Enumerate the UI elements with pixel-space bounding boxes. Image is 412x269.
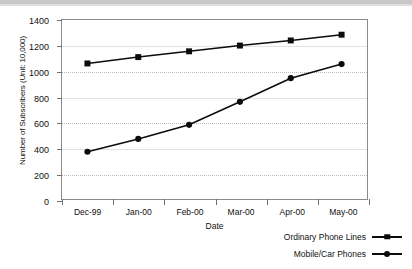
x-tick — [216, 199, 217, 205]
x-tick-label: Apr-00 — [279, 207, 305, 217]
x-tick-label: Jan-00 — [126, 207, 152, 217]
legend-marker-circle-icon — [372, 249, 402, 259]
x-tick — [369, 199, 370, 205]
x-tick-label: Feb-00 — [176, 207, 203, 217]
chart-legend: Ordinary Phone Lines Mobile/Car Phones — [162, 228, 402, 262]
data-point-circle[interactable] — [135, 136, 141, 142]
series-line — [87, 64, 341, 152]
y-tick-label: 200 — [34, 171, 49, 181]
y-tick-label: 1400 — [29, 16, 49, 26]
y-axis-title: Number of Subscribers (Unit: 10,000) — [18, 16, 27, 186]
data-point-square[interactable] — [288, 37, 294, 43]
y-tick-label: 1000 — [29, 68, 49, 78]
legend-marker-square-icon — [372, 232, 402, 242]
x-tick — [318, 199, 319, 205]
x-tick — [113, 199, 114, 205]
chart-figure: Number of Subscribers (Unit: 10,000) 020… — [0, 0, 412, 269]
legend-label: Mobile/Car Phones — [294, 249, 366, 259]
data-point-square[interactable] — [339, 32, 345, 38]
data-point-square[interactable] — [186, 48, 192, 54]
x-tick — [62, 199, 63, 205]
y-tick-label: 400 — [34, 145, 49, 155]
data-point-square[interactable] — [135, 54, 141, 60]
data-point-circle[interactable] — [84, 149, 90, 155]
x-tick-label: May-00 — [329, 207, 357, 217]
y-tick-label: 1200 — [29, 42, 49, 52]
data-point-circle[interactable] — [237, 99, 243, 105]
x-tick-label: Dec-99 — [74, 207, 101, 217]
legend-label: Ordinary Phone Lines — [284, 232, 366, 242]
series-line — [87, 35, 341, 64]
y-tick-label: 0 — [44, 197, 49, 207]
legend-item-mobile-car-phones[interactable]: Mobile/Car Phones — [162, 245, 402, 262]
x-tick-label: Mar-00 — [228, 207, 255, 217]
y-tick-label: 800 — [34, 94, 49, 104]
data-point-square[interactable] — [84, 61, 90, 67]
x-tick — [267, 199, 268, 205]
data-point-circle[interactable] — [186, 122, 192, 128]
scan-artifact-band-secondary — [0, 4, 412, 6]
data-point-square[interactable] — [237, 43, 243, 49]
y-tick-label: 600 — [34, 119, 49, 129]
x-tick — [164, 199, 165, 205]
data-point-circle[interactable] — [288, 75, 294, 81]
data-point-circle[interactable] — [339, 61, 345, 67]
plot-area: 0200400600800100012001400 Dec-99Jan-00Fe… — [61, 19, 368, 200]
series-layer — [62, 20, 367, 199]
legend-item-ordinary-phone-lines[interactable]: Ordinary Phone Lines — [162, 228, 402, 245]
